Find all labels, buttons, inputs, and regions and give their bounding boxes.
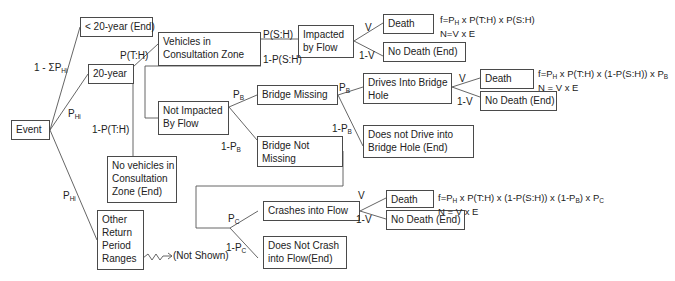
- node-label: Hole: [368, 89, 447, 102]
- edge-pc: PC: [228, 213, 239, 228]
- edge-one-minus-sum-phi: 1 - ΣPHi: [34, 62, 67, 77]
- node-label: Impacted: [303, 28, 349, 41]
- edge-v-2: V: [459, 73, 466, 85]
- not-shown-label: (Not Shown): [173, 250, 229, 262]
- node-other-return-periods: Other Return Period Ranges: [97, 210, 144, 270]
- node-label: Bridge Not: [262, 139, 338, 152]
- node-label: Vehicles in: [163, 35, 256, 48]
- node-label: Ranges: [102, 252, 139, 265]
- node-label: Bridge Hole (End): [368, 141, 469, 154]
- node-does-not-drive: Does not Drive into Bridge Hole (End): [363, 125, 474, 158]
- node-death-3: Death: [386, 190, 434, 208]
- edge-pb-1: PB: [233, 89, 244, 104]
- node-death-1: Death: [383, 14, 434, 34]
- formula-2: f=PH x P(T:H) x (1-P(S:H)) x PB N = V x …: [538, 68, 668, 93]
- node-impacted-by-flow: Impacted by Flow: [298, 25, 354, 58]
- node-death-2: Death: [480, 69, 534, 89]
- node-label: Does Not Crash: [268, 239, 342, 252]
- node-not-impacted-by-flow: Not Impacted By Flow: [158, 101, 229, 135]
- node-label: Death: [485, 73, 512, 84]
- edge-one-minus-pb-2: 1-PB: [332, 123, 352, 138]
- edge-one-minus-v-3: 1-V: [356, 214, 372, 226]
- node-label: Consultation: [112, 172, 172, 185]
- node-label: Period: [102, 239, 139, 252]
- node-label: Zone (End): [112, 185, 172, 198]
- node-label: No Death (End): [388, 46, 457, 57]
- node-label: By Flow: [163, 117, 224, 130]
- node-vehicles-in-zone: Vehicles in Consultation Zone: [158, 32, 261, 66]
- node-label: No vehicles in: [112, 159, 172, 172]
- node-label: Consultation Zone: [163, 48, 256, 61]
- node-event: Event: [11, 120, 50, 140]
- edge-one-minus-pc: 1-PC: [226, 242, 246, 257]
- node-label: Bridge Missing: [262, 89, 328, 100]
- edge-phi-lower: PHi: [63, 190, 76, 205]
- edge-one-minus-p-s-h: 1-P(S:H): [263, 54, 302, 66]
- node-label: < 20-year (End): [85, 21, 155, 32]
- node-label: Does not Drive into: [368, 128, 469, 141]
- node-label: Missing: [262, 152, 338, 165]
- node-label: Drives Into Bridge: [368, 76, 447, 89]
- node-bridge-not-missing: Bridge Not Missing: [257, 136, 343, 167]
- node-less-than-20-year: < 20-year (End): [80, 17, 153, 37]
- edge-pb-2: PB: [339, 82, 350, 97]
- event-tree-diagram: Event < 20-year (End) 20-year Vehicles i…: [0, 0, 675, 281]
- edge-one-minus-p-t-h: 1-P(T:H): [92, 124, 129, 136]
- edge-one-minus-v-1: 1-V: [359, 50, 375, 62]
- edge-v-1: V: [365, 22, 372, 34]
- formula-1: f=PH x P(T:H) x P(S:H) N=V x E: [440, 14, 535, 39]
- node-label: No Death (End): [485, 95, 554, 106]
- edge-phi-upper: PHi: [68, 108, 81, 123]
- node-label: by Flow: [303, 41, 349, 54]
- node-label: Return: [102, 226, 139, 239]
- node-label: Death: [388, 18, 415, 29]
- node-crashes-into-flow: Crashes into Flow: [263, 201, 360, 221]
- node-no-vehicles: No vehicles in Consultation Zone (End): [107, 156, 177, 203]
- formula-3: f=PH x P(T:H) x (1-P(S:H)) x (1-PB) x PC…: [438, 192, 604, 217]
- node-label: into Flow(End): [268, 252, 342, 265]
- node-label: Event: [16, 124, 42, 135]
- edge-p-s-h: P(S:H): [263, 29, 293, 41]
- node-20-year: 20-year: [88, 64, 134, 84]
- edge-one-minus-pb-1: 1-PB: [221, 141, 241, 156]
- node-label: Crashes into Flow: [268, 205, 348, 216]
- node-label: 20-year: [93, 68, 127, 79]
- node-does-not-crash: Does Not Crash into Flow(End): [263, 236, 347, 269]
- node-drives-into-bridge-hole: Drives Into Bridge Hole: [363, 73, 452, 104]
- node-no-death-1: No Death (End): [383, 42, 466, 62]
- node-label: Not Impacted: [163, 104, 224, 117]
- node-bridge-missing: Bridge Missing: [257, 85, 338, 105]
- node-label: Death: [391, 194, 418, 205]
- edge-v-3: V: [358, 190, 365, 202]
- node-no-death-2: No Death (End): [480, 91, 557, 111]
- edge-one-minus-v-2: 1-V: [457, 96, 473, 108]
- edge-p-t-h: P(T:H): [120, 50, 148, 62]
- node-label: Other: [102, 213, 139, 226]
